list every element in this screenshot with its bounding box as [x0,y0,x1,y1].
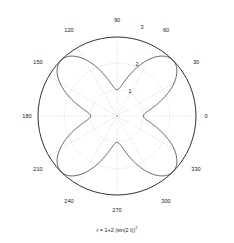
plot-caption: r = 1+2 (sin(2 t))2 [0,225,234,233]
spoke-240 [78,116,118,184]
radial-label-2: 2 [135,61,138,67]
angle-label-90: 90 [114,17,120,23]
spoke-60 [117,48,157,116]
spoke-120 [78,48,118,116]
angle-label-180: 180 [22,113,31,119]
caption-exponent: 2 [135,225,137,230]
angle-label-330: 330 [191,166,200,172]
radial-tick-labels: 1 2 3 [128,24,143,94]
spoke-30 [117,77,185,117]
radial-label-3: 3 [140,24,143,30]
spoke-210 [49,116,117,156]
caption-expression: r = 1+2 (sin(2 t)) [97,227,136,233]
angle-label-60: 60 [163,27,169,33]
angle-label-210: 210 [33,166,42,172]
radial-label-1: 1 [128,88,131,94]
spoke-330 [117,116,185,156]
angle-label-150: 150 [33,59,42,65]
angle-label-270: 270 [112,207,121,213]
angle-label-300: 300 [161,198,170,204]
polar-axes: 0 30 60 90 120 150 180 210 240 270 300 3… [0,0,234,243]
angle-label-120: 120 [64,27,73,33]
spoke-300 [117,116,157,184]
spoke-150 [49,77,117,117]
angle-label-240: 240 [64,198,73,204]
angle-label-0: 0 [204,113,207,119]
angle-label-30: 30 [193,59,199,65]
angle-tick-labels: 0 30 60 90 120 150 180 210 240 270 300 3… [22,17,207,213]
polar-plot-figure: 0 30 60 90 120 150 180 210 240 270 300 3… [0,0,234,243]
grid-spokes [38,37,196,195]
